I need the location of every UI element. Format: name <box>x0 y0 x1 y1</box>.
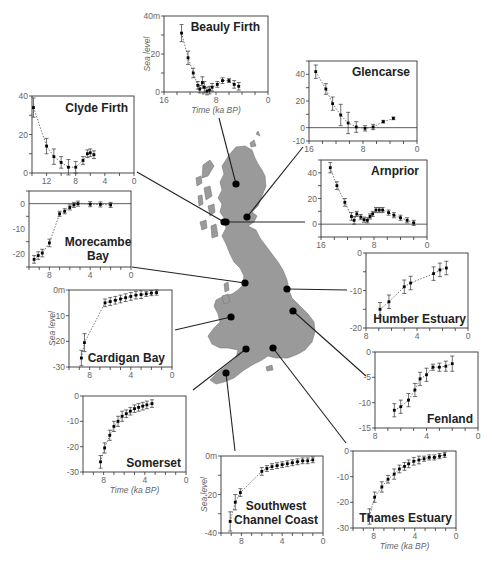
data-point <box>141 405 144 408</box>
data-point <box>428 456 431 459</box>
data-point <box>83 341 86 344</box>
chart-title-humber: Humber Estuary <box>373 312 466 326</box>
data-point <box>145 292 148 295</box>
y-tick-label: 0m <box>205 451 217 461</box>
chart-panel-somerset: 840-30-20-100Time (ka BP)Somerset <box>67 391 189 495</box>
site-marker-glencarse <box>243 213 250 220</box>
data-point <box>150 292 153 295</box>
site-marker-arnprior <box>222 218 229 225</box>
data-point <box>129 410 132 413</box>
data-point <box>58 212 61 215</box>
data-point <box>109 300 112 303</box>
data-point <box>63 210 66 213</box>
data-point <box>336 184 339 187</box>
data-point <box>443 453 446 456</box>
data-point <box>140 293 143 296</box>
chart-panel-morecambe: 840-20-100MorecambeBay <box>13 191 134 280</box>
x-tick-label: 16 <box>304 144 314 154</box>
x-tick-label: 8 <box>361 144 366 154</box>
y-tick-label: 0 <box>312 219 317 229</box>
map-island <box>204 186 212 200</box>
y-tick-label: -10 <box>13 224 26 234</box>
data-point <box>260 470 263 473</box>
chart-title-fenland: Fenland <box>427 412 473 426</box>
chart-title-glencarse: Glencarse <box>352 65 410 79</box>
leader-line-morecambe <box>132 267 245 283</box>
data-point <box>89 151 92 154</box>
map-island <box>198 195 203 206</box>
data-point <box>331 102 334 105</box>
data-point <box>311 458 314 461</box>
y-tick-label: -20 <box>67 442 80 452</box>
y-tick-label: 20 <box>19 130 29 140</box>
data-point <box>353 219 356 222</box>
data-point <box>216 83 219 86</box>
data-point <box>117 420 120 423</box>
data-point <box>151 402 154 405</box>
chart-title-morecambe: Morecambe <box>65 235 132 249</box>
data-point <box>180 32 183 35</box>
data-point <box>301 459 304 462</box>
x-tick-label: 8 <box>214 95 219 105</box>
y-tick-label: -5 <box>363 372 371 382</box>
data-point <box>266 467 269 470</box>
data-point <box>281 463 284 466</box>
y-tick-label: -40 <box>205 528 218 538</box>
data-point <box>211 86 214 89</box>
x-tick-label: 4 <box>412 531 417 541</box>
chart-panel-fenland: 840-15-10-50Fenland <box>359 347 481 441</box>
chart-panel-glencarse: 1680-1002040Glencarse <box>293 61 420 154</box>
chart-title-southwest: Southwest <box>246 499 307 513</box>
map-island <box>196 176 202 186</box>
data-point <box>393 409 396 412</box>
x-tick-label: 4 <box>128 370 133 380</box>
data-point <box>125 412 128 415</box>
chart-title-southwest: Channel Coast <box>234 513 318 527</box>
y-tick-label: 0 <box>155 87 160 97</box>
data-point <box>113 425 116 428</box>
chart-panel-humber: 840-20-100Humber Estuary <box>350 248 471 341</box>
data-point <box>296 460 299 463</box>
data-point <box>233 83 236 86</box>
x-tick-label: 8 <box>373 431 378 441</box>
site-marker-beauly <box>232 180 239 187</box>
data-point <box>114 299 117 302</box>
data-point <box>432 272 435 275</box>
chart-title-arnprior: Arnprior <box>371 164 419 178</box>
x-tick-label: 0 <box>170 370 175 380</box>
data-point <box>187 56 190 59</box>
x-tick-label: 8 <box>371 531 376 541</box>
x-tick-label: 0 <box>132 176 137 186</box>
x-tick-label: 8 <box>239 536 244 546</box>
data-point <box>206 90 209 93</box>
y-tick-label: -30 <box>53 362 66 372</box>
data-point <box>388 300 391 303</box>
y-tick-label: 20 <box>296 96 306 106</box>
data-point <box>77 202 80 205</box>
data-point <box>364 127 367 130</box>
map-island <box>211 224 218 238</box>
y-tick-label: -15 <box>359 423 372 433</box>
data-point <box>418 459 421 462</box>
data-point <box>419 377 422 380</box>
data-point <box>324 88 327 91</box>
chart-panel-arnprior: 168002040Arnprior <box>308 160 430 250</box>
x-tick-label: 4 <box>280 536 285 546</box>
data-point <box>355 213 358 216</box>
data-point <box>343 201 346 204</box>
data-point <box>133 407 136 410</box>
data-point <box>407 399 410 402</box>
data-point <box>393 473 396 476</box>
data-point <box>276 464 279 467</box>
y-tick-label: 0 <box>23 168 28 178</box>
chart-panel-beauly: 168002040mSea levelTime (ka BP)Beauly Fi… <box>142 11 271 115</box>
x-tick-label: 0 <box>321 536 326 546</box>
data-point <box>398 468 401 471</box>
data-point <box>403 465 406 468</box>
site-marker-humber <box>283 285 290 292</box>
y-tick-label: -10 <box>359 398 372 408</box>
site-marker-cardigan <box>227 313 234 320</box>
map-island <box>266 365 273 371</box>
x-tick-label: 4 <box>102 176 107 186</box>
data-point <box>89 203 92 206</box>
